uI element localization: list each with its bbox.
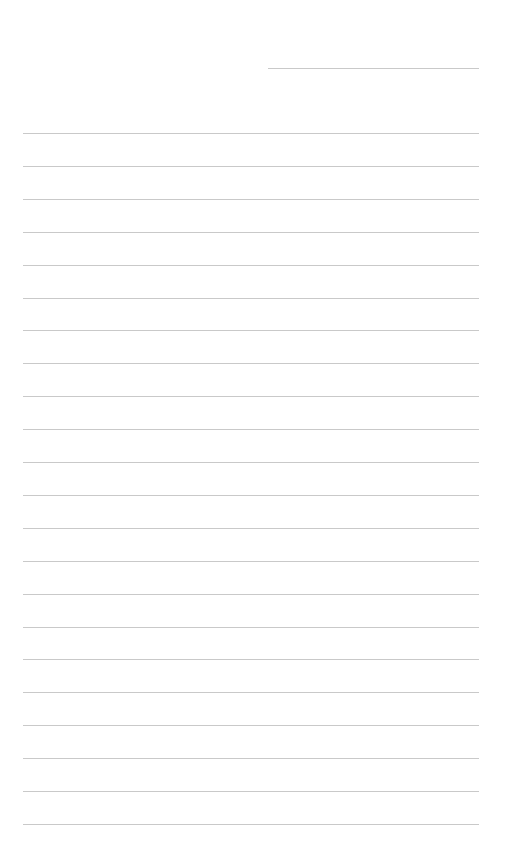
lined-paper-page (0, 0, 513, 850)
ruled-line (23, 692, 479, 693)
ruled-line (23, 528, 479, 529)
ruled-line (23, 396, 479, 397)
ruled-line (23, 166, 479, 167)
ruled-line (23, 758, 479, 759)
header-blank-line (268, 68, 479, 69)
ruled-line (23, 232, 479, 233)
ruled-line (23, 495, 479, 496)
ruled-line (23, 594, 479, 595)
ruled-line (23, 330, 479, 331)
ruled-line (23, 627, 479, 628)
ruled-line (23, 363, 479, 364)
ruled-line (23, 429, 479, 430)
ruled-line (23, 298, 479, 299)
ruled-line (23, 462, 479, 463)
ruled-line (23, 199, 479, 200)
ruled-line (23, 133, 479, 134)
ruled-line (23, 824, 479, 825)
ruled-line (23, 659, 479, 660)
ruled-line (23, 561, 479, 562)
ruled-line (23, 791, 479, 792)
ruled-line (23, 265, 479, 266)
ruled-line (23, 725, 479, 726)
